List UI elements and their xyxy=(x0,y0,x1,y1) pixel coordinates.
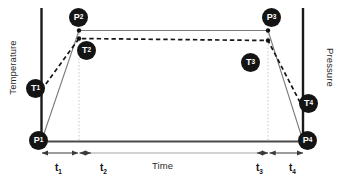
tick-label-t3: t3 xyxy=(256,162,263,175)
point-dot-p2 xyxy=(77,28,81,32)
node-p1: P1 xyxy=(29,131,48,150)
node-t1: T1 xyxy=(26,79,45,98)
tick-label-t2: t2 xyxy=(100,162,107,175)
node-t4: T4 xyxy=(299,94,318,113)
node-p4: P4 xyxy=(298,131,317,150)
x-axis-label-time: Time xyxy=(152,160,173,171)
node-p3: P3 xyxy=(262,8,281,27)
point-dot-t2 xyxy=(77,36,81,40)
node-t2: T2 xyxy=(77,41,96,60)
y-axis-label-temperature: Temperature xyxy=(7,38,18,98)
process-profile-svg xyxy=(0,0,341,180)
node-p2: P2 xyxy=(69,8,88,27)
tick-label-t1: t1 xyxy=(55,162,62,175)
node-t3: T3 xyxy=(241,53,260,72)
point-dot-p3 xyxy=(266,28,270,32)
point-dot-t3 xyxy=(266,38,270,42)
tick-label-t4: t4 xyxy=(289,162,296,175)
y-axis-label-pressure: Pressure xyxy=(325,38,336,98)
diagram-canvas: Temperature Pressure Time t1 t2 t3 t4 P1… xyxy=(0,0,341,180)
